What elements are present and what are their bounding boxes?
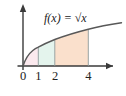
x-tick-label-4: 4 bbox=[85, 69, 92, 83]
y-axis-arrow-icon bbox=[20, 4, 26, 12]
plot-canvas: 0 1 2 4 f(x) = √x bbox=[0, 0, 126, 96]
x-tick-label-2: 2 bbox=[52, 69, 58, 83]
x-axis-arrow-icon bbox=[106, 63, 113, 69]
shaded-region-2-to-4 bbox=[55, 29, 89, 66]
function-formula-label: f(x) = √x bbox=[44, 11, 87, 25]
x-tick-label-1: 1 bbox=[35, 69, 41, 83]
x-tick-label-0: 0 bbox=[20, 69, 26, 83]
sqrt-function-figure: 0 1 2 4 f(x) = √x bbox=[0, 0, 126, 96]
shaded-region-0-to-1 bbox=[23, 47, 38, 66]
